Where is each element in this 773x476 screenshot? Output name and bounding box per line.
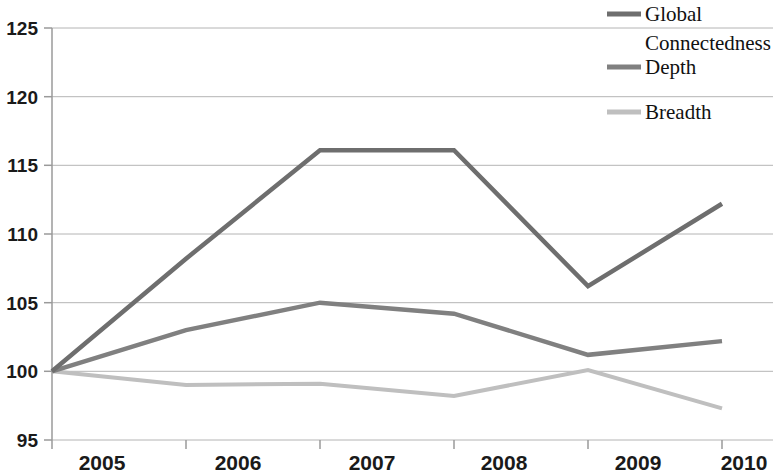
x-label-2009: 2009: [615, 451, 662, 474]
legend-label-breadth: Breadth: [645, 100, 712, 124]
y-label-95: 95: [17, 430, 39, 451]
y-label-120: 120: [6, 87, 38, 108]
x-tick-marks: [52, 440, 722, 449]
y-label-115: 115: [7, 155, 38, 176]
x-label-2006: 2006: [215, 451, 262, 474]
y-label-110: 110: [7, 224, 38, 245]
gridlines: [52, 28, 773, 440]
y-label-105: 105: [6, 293, 38, 314]
series-line-depth: [52, 303, 722, 372]
legend: Global Connectedness Depth Breadth: [607, 2, 771, 124]
x-label-2008: 2008: [481, 451, 528, 474]
legend-label-global: Global: [645, 2, 702, 26]
legend-label-connectedness: Connectedness: [645, 31, 771, 55]
x-label-2010: 2010: [721, 451, 768, 474]
series-line-breadth: [52, 370, 722, 408]
legend-label-depth: Depth: [645, 55, 697, 79]
x-label-2005: 2005: [79, 451, 126, 474]
y-label-100: 100: [6, 361, 38, 382]
line-chart: 125 120 115 110 105 100 95 2005 2006 200…: [0, 0, 773, 476]
y-tick-marks: [44, 28, 52, 440]
x-label-2007: 2007: [349, 451, 396, 474]
y-axis-labels: 125 120 115 110 105 100 95: [6, 18, 38, 451]
x-axis-labels: 2005 2006 2007 2008 2009 2010: [79, 451, 768, 474]
chart-canvas: 125 120 115 110 105 100 95 2005 2006 200…: [0, 0, 773, 476]
y-label-125: 125: [6, 18, 38, 39]
